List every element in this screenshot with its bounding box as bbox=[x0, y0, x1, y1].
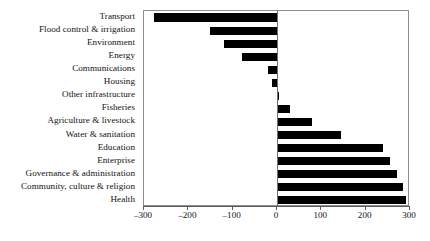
bar bbox=[277, 105, 290, 113]
bar-row bbox=[144, 116, 408, 129]
y-axis-label: Governance & administration bbox=[0, 167, 139, 180]
bar bbox=[224, 40, 277, 48]
y-axis-label: Transport bbox=[0, 10, 139, 23]
bar bbox=[277, 196, 406, 204]
bar bbox=[277, 157, 390, 165]
x-axis-tick-label: 100 bbox=[314, 211, 328, 220]
bar-row bbox=[144, 129, 408, 142]
y-axis-label: Environment bbox=[0, 36, 139, 49]
bar bbox=[277, 183, 403, 191]
bar-row bbox=[144, 181, 408, 194]
x-axis-tick-label: –100 bbox=[223, 211, 241, 220]
bar bbox=[154, 13, 277, 21]
plot-area bbox=[143, 10, 409, 206]
bar-chart: TransportFlood control & irrigationEnvir… bbox=[0, 0, 430, 241]
bar bbox=[277, 144, 383, 152]
bar-row bbox=[144, 63, 408, 76]
bar bbox=[277, 118, 312, 126]
y-axis-label: Enterprise bbox=[0, 154, 139, 167]
bar bbox=[242, 53, 277, 61]
x-axis-tick-label: 0 bbox=[274, 211, 279, 220]
zero-axis-line bbox=[277, 10, 278, 206]
y-axis-category-labels: TransportFlood control & irrigationEnvir… bbox=[0, 10, 139, 206]
bar-row bbox=[144, 102, 408, 115]
y-axis-label: Education bbox=[0, 141, 139, 154]
bar-row bbox=[144, 168, 408, 181]
x-axis-tick-label: 200 bbox=[358, 211, 372, 220]
y-axis-label: Flood control & irrigation bbox=[0, 23, 139, 36]
bar bbox=[277, 131, 341, 139]
bar-row bbox=[144, 11, 408, 24]
y-axis-label: Agriculture & livestock bbox=[0, 115, 139, 128]
y-axis-label: Housing bbox=[0, 75, 139, 88]
bar bbox=[268, 66, 277, 74]
bar-row bbox=[144, 142, 408, 155]
bar bbox=[210, 27, 277, 35]
bar-row bbox=[144, 37, 408, 50]
bar-row bbox=[144, 50, 408, 63]
bars-container bbox=[144, 11, 408, 205]
bar-row bbox=[144, 155, 408, 168]
y-axis-label: Other infrastructure bbox=[0, 88, 139, 101]
x-axis-tick-label: –300 bbox=[134, 211, 152, 220]
y-axis-label: Communications bbox=[0, 62, 139, 75]
bar bbox=[277, 170, 397, 178]
y-axis-label: Fisheries bbox=[0, 101, 139, 114]
bar-row bbox=[144, 89, 408, 102]
x-axis-tick-label: –200 bbox=[178, 211, 196, 220]
y-axis-label: Community, culture & religion bbox=[0, 180, 139, 193]
y-axis-label: Water & sanitation bbox=[0, 128, 139, 141]
y-axis-label: Energy bbox=[0, 49, 139, 62]
y-axis-label: Health bbox=[0, 193, 139, 206]
x-axis-tick-label: 300 bbox=[402, 211, 416, 220]
bar-row bbox=[144, 76, 408, 89]
bar-row bbox=[144, 24, 408, 37]
